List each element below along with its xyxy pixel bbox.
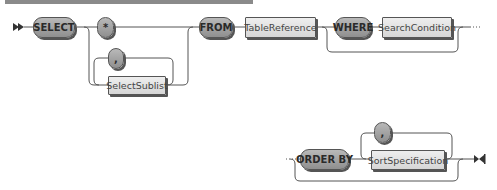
- sort-specification: SortSpecification: [371, 150, 445, 170]
- sort-separator-comma: ,: [374, 122, 391, 143]
- keyword-order-by: ORDER BY: [300, 149, 349, 170]
- keyword-from: FROM: [199, 17, 233, 38]
- option-star: *: [97, 17, 114, 38]
- sublist-separator-comma: ,: [108, 48, 124, 69]
- select-sublist: SelectSublist: [108, 76, 166, 95]
- search-condition: SearchCondition: [382, 17, 452, 38]
- keyword-select: SELECT: [33, 17, 75, 38]
- table-reference: TableReference: [245, 17, 316, 38]
- keyword-where: WHERE: [335, 17, 371, 38]
- start-arrow-icon: [13, 23, 24, 31]
- syntax-diagram: SELECT * , SelectSublist FROM TableRefer…: [0, 0, 497, 190]
- end-marker-icon: [474, 154, 486, 164]
